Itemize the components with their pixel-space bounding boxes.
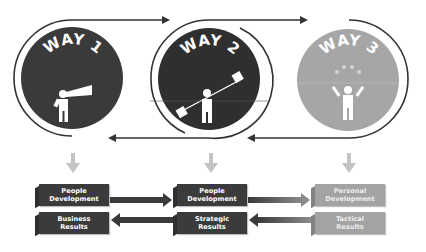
way-1-bottom-box: Business Results [39, 212, 109, 234]
box-text: People [199, 187, 224, 195]
way-3-circle: WAY 3 [297, 29, 399, 131]
box-text: Strategic [195, 215, 229, 223]
box-text: Development [325, 195, 374, 203]
right-arrow-icon [110, 193, 172, 207]
box-text: Results [336, 223, 364, 231]
way-3-top-box: Personal Development [315, 184, 385, 206]
down-arrow-icon [342, 153, 356, 173]
down-arrow-icon [66, 153, 80, 173]
right-arrow-icon [248, 193, 310, 207]
box-text: Development [187, 195, 236, 203]
box-text: Development [49, 195, 98, 203]
box-text: People [61, 187, 86, 195]
box-text: Business [58, 215, 91, 223]
box-text: Results [60, 223, 88, 231]
box-text: Results [198, 223, 226, 231]
down-arrow-icon [204, 153, 218, 173]
way-2-circle: WAY 2 [150, 28, 268, 130]
box-text: Tactical [336, 215, 364, 223]
way-2-bottom-box: Strategic Results [177, 212, 247, 234]
three-ways-diagram: WAY 1 WAY 2 [0, 0, 426, 252]
way-1-top-box: People Development [39, 184, 109, 206]
left-arrow-icon [111, 213, 173, 227]
down-arrows [66, 153, 356, 173]
way-3-bottom-box: Tactical Results [315, 212, 385, 234]
box-text: Personal [334, 187, 366, 195]
way-2-top-box: People Development [177, 184, 247, 206]
way-1-circle: WAY 1 [21, 27, 123, 129]
left-arrow-icon [249, 213, 311, 227]
